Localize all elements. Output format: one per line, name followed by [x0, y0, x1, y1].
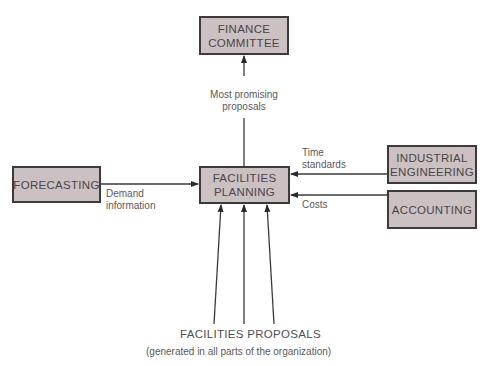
edge-label-costs: Costs — [302, 199, 328, 211]
node-industrial-engineering: INDUSTRIAL ENGINEERING — [387, 145, 477, 184]
edge-label-time-standards: Time standards — [302, 147, 346, 171]
node-finance-committee: FINANCE COMMITTEE — [199, 16, 289, 55]
node-accounting: ACCOUNTING — [387, 190, 477, 229]
facilities-proposals-title: FACILITIES PROPOSALS — [180, 328, 321, 340]
facilities-proposals-subtitle: (generated in all parts of the organizat… — [146, 346, 331, 357]
node-forecasting: FORECASTING — [12, 166, 101, 203]
edge-label-demand-information: Demand information — [106, 188, 155, 212]
edge-label-most-promising-proposals: Most promising proposals — [204, 89, 284, 113]
node-facilities-planning: FACILITIES PLANNING — [199, 166, 290, 204]
